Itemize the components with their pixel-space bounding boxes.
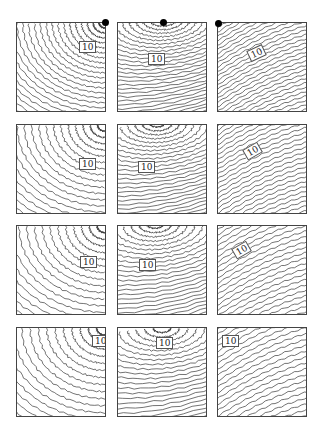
source-marker-dot	[160, 19, 167, 26]
contour-lines	[118, 125, 206, 213]
contour-panel: 10	[16, 225, 106, 315]
contour-panel: 10	[117, 22, 207, 112]
contour-lines	[118, 23, 206, 111]
contour-label: 10	[138, 161, 155, 173]
contour-panel: 10	[117, 124, 207, 214]
contour-lines	[218, 125, 306, 213]
contour-panel: 10	[16, 22, 106, 112]
contour-lines	[17, 226, 105, 314]
contour-label: 10	[80, 256, 97, 268]
contour-label: 10	[79, 158, 96, 170]
contour-panel: 10	[217, 225, 307, 315]
contour-label: 10	[156, 337, 173, 349]
contour-panel: 10	[117, 225, 207, 315]
contour-panel: 10	[16, 124, 106, 214]
source-marker-dot	[102, 19, 109, 26]
contour-label: 10	[148, 53, 165, 65]
contour-label: 10	[92, 335, 106, 347]
contour-panel: 10	[217, 22, 307, 112]
contour-panel: 10	[217, 124, 307, 214]
contour-panel: 10	[117, 327, 207, 417]
source-marker-dot	[215, 20, 222, 27]
contour-panel: 10	[16, 327, 106, 417]
contour-lines	[218, 23, 306, 111]
contour-label: 10	[139, 259, 156, 271]
contour-label: 10	[79, 41, 96, 53]
contour-panel: 10	[217, 327, 307, 417]
contour-lines	[17, 23, 105, 111]
contour-label: 10	[222, 335, 239, 347]
contour-lines	[218, 226, 306, 314]
contour-lines	[118, 226, 206, 314]
